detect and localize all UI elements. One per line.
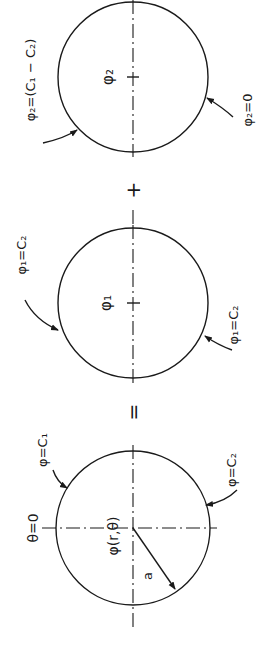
radius-label: a (140, 572, 155, 580)
center-label-original: φ(r,θ) (105, 517, 121, 556)
lower-boundary-label-original: φ=C₂ (224, 453, 239, 487)
lower-boundary-label-phi2: φ₂=0 (240, 94, 255, 127)
angle-label: θ=0 (25, 513, 41, 542)
superposition-diagram: φ₂ φ₂=(C₁ − C₂) φ₂=0 + φ₁ φ₁=C₂ φ₁=C₂ = … (0, 0, 273, 654)
center-label-phi2: φ₂ (99, 69, 117, 85)
equals-operator: = (121, 404, 145, 421)
upper-boundary-label-phi1: φ₁=C₂ (14, 236, 29, 275)
arrow-upper-phi2 (43, 130, 77, 143)
arrow-lower-phi2 (207, 98, 233, 117)
arrow-upper-phi1 (25, 300, 58, 330)
center-label-phi1: φ₁ (97, 295, 115, 311)
arrow-upper-original (53, 470, 67, 488)
upper-boundary-label-phi2: φ₂=(C₁ − C₂) (23, 39, 38, 122)
plus-operator: + (121, 182, 145, 199)
panel-phi1: φ₁ φ₁=C₂ φ₁=C₂ (14, 225, 241, 383)
upper-boundary-label-original: φ=C₁ (35, 433, 50, 467)
panel-original: θ=0 φ(r,θ) a φ=C₁ φ=C₂ (25, 433, 239, 630)
panel-phi2: φ₂ φ₂=(C₁ − C₂) φ₂=0 (23, 0, 255, 157)
lower-boundary-label-phi1: φ₁=C₂ (226, 306, 241, 345)
arrow-lower-original (206, 490, 237, 505)
